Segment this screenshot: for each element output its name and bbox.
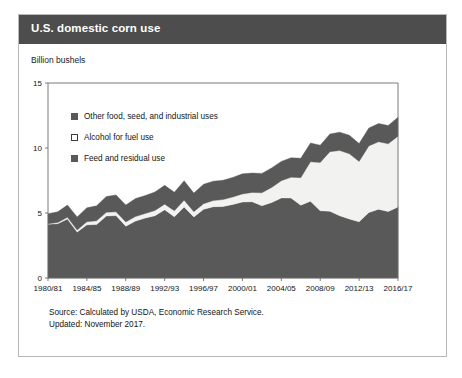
y-tick-label: 10 [33, 144, 42, 153]
footer-updated: Updated: November 2017. [49, 319, 264, 331]
legend-item-alcohol-fuel: Alcohol for fuel use [71, 129, 218, 146]
chart-footer: Source: Calculated by USDA, Economic Res… [49, 307, 264, 331]
chart-screenshot: U.S. domestic corn use Billion bushels 0… [0, 0, 462, 378]
x-tick-label: 1992/93 [150, 284, 179, 293]
chart-card: U.S. domestic corn use Billion bushels 0… [18, 14, 447, 357]
legend-label: Alcohol for fuel use [84, 133, 154, 142]
x-tick-label: 1988/89 [111, 284, 140, 293]
x-tick-label: 1984/85 [72, 284, 101, 293]
x-tick-label: 2004/05 [267, 284, 296, 293]
y-tick-label: 15 [33, 79, 42, 88]
legend-item-other-food: Other food, seed, and industrial uses [71, 108, 218, 125]
legend-label: Other food, seed, and industrial uses [84, 112, 218, 121]
legend-swatch-icon [71, 155, 78, 162]
legend-item-feed-residual: Feed and residual use [71, 150, 218, 167]
x-tick-label: 1980/81 [34, 284, 63, 293]
x-tick-label: 2000/01 [228, 284, 257, 293]
chart-legend: Other food, seed, and industrial uses Al… [71, 108, 218, 171]
y-tick-label: 0 [38, 274, 43, 283]
y-tick-label: 5 [38, 209, 43, 218]
legend-label: Feed and residual use [84, 154, 165, 163]
footer-source: Source: Calculated by USDA, Economic Res… [49, 307, 264, 319]
legend-swatch-icon [71, 134, 78, 141]
x-tick-label: 2016/17 [384, 284, 413, 293]
legend-swatch-icon [71, 113, 78, 120]
x-tick-label: 1996/97 [189, 284, 218, 293]
x-tick-label: 2008/09 [306, 284, 335, 293]
x-tick-label: 2012/13 [345, 284, 374, 293]
